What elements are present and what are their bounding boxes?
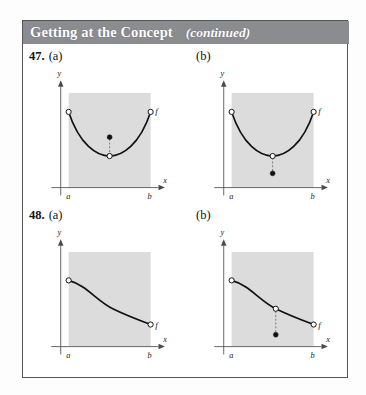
y-axis-label: y: [57, 228, 62, 237]
x-axis-arrow: [322, 185, 328, 191]
x-tick-a: a: [229, 351, 233, 360]
textbook-page: Getting at the Concept (continued) 47.(a…: [0, 0, 366, 395]
y-axis-arrow: [58, 239, 64, 245]
y-axis-label: y: [220, 228, 225, 237]
graph-48a: y x a b f: [23, 222, 186, 360]
problem-row-47: 47.(a) y x a b: [23, 47, 349, 202]
open-point-left-endpoint: [66, 109, 71, 114]
graph-47b: y x a b f: [186, 63, 349, 201]
problem-48-part-a: 48.(a) y x a b: [23, 206, 186, 374]
x-axis-arrow: [159, 185, 165, 191]
part-label-48a: (a): [49, 208, 63, 222]
exercise-frame: Getting at the Concept (continued) 47.(a…: [22, 20, 348, 378]
problem-47-caption: 47.(a): [29, 49, 63, 64]
open-point-right-endpoint: [148, 109, 153, 114]
part-label-47b: (b): [196, 49, 211, 63]
x-tick-b: b: [310, 192, 314, 201]
function-label-f: f: [155, 320, 159, 330]
x-tick-b: b: [310, 351, 314, 360]
y-axis-label: y: [220, 69, 225, 78]
open-point-minimum: [107, 153, 112, 158]
problem-48-part-b: (b) y x a b: [186, 206, 349, 374]
problem-47-part-b: (b) y x a b: [186, 47, 349, 202]
filled-point-above-minimum: [107, 135, 112, 140]
x-axis-arrow: [159, 344, 165, 350]
filled-point-below-minimum: [270, 171, 275, 176]
open-point-left-endpoint: [66, 278, 71, 283]
open-point-interior: [273, 306, 278, 311]
part-label-48b: (b): [196, 208, 211, 222]
open-point-left-endpoint: [229, 278, 234, 283]
part-caption-48b: (b): [196, 208, 211, 223]
problem-number-48: 48.: [29, 208, 45, 222]
x-axis-label: x: [162, 176, 167, 185]
x-axis-arrow: [322, 344, 328, 350]
section-title: Getting at the Concept: [30, 24, 173, 41]
open-point-left-endpoint: [229, 109, 234, 114]
open-point-right-endpoint: [148, 322, 153, 327]
x-tick-b: b: [147, 192, 151, 201]
section-continued-label: (continued): [186, 25, 251, 41]
section-header-band: Getting at the Concept (continued): [23, 21, 349, 44]
problem-number-47: 47.: [29, 49, 45, 63]
x-tick-a: a: [66, 192, 70, 201]
function-label-f: f: [155, 106, 159, 116]
open-point-right-endpoint: [311, 322, 316, 327]
x-axis-label: x: [325, 176, 330, 185]
open-point-minimum: [270, 153, 275, 158]
plot-shading-region: [232, 252, 314, 347]
graph-48b: y x a b f: [186, 222, 349, 360]
x-tick-b: b: [147, 351, 151, 360]
x-axis-label: x: [162, 335, 167, 344]
function-label-f: f: [318, 106, 322, 116]
part-label-47a: (a): [49, 49, 63, 63]
problem-row-48: 48.(a) y x a b: [23, 206, 349, 374]
x-axis-label: x: [325, 335, 330, 344]
problem-48-caption: 48.(a): [29, 208, 63, 223]
graph-47a: y x a b f: [23, 63, 186, 201]
plot-shading-region: [69, 252, 151, 347]
y-axis-arrow: [221, 239, 227, 245]
y-axis-arrow: [58, 80, 64, 86]
x-tick-a: a: [229, 192, 233, 201]
function-label-f: f: [318, 320, 322, 330]
y-axis-arrow: [221, 80, 227, 86]
open-point-right-endpoint: [311, 109, 316, 114]
problem-47-part-a: 47.(a) y x a b: [23, 47, 186, 202]
filled-point-below-interior: [273, 332, 278, 337]
part-caption-47b: (b): [196, 49, 211, 64]
x-tick-a: a: [66, 351, 70, 360]
y-axis-label: y: [57, 69, 62, 78]
